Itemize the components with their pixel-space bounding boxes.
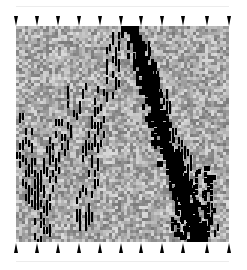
up-arrow-icon — [56, 243, 60, 253]
top-guide-line — [16, 6, 229, 7]
up-arrow-icon — [77, 243, 81, 253]
up-arrow-icon — [119, 243, 123, 253]
specimen-damage-field — [16, 26, 229, 242]
specimen-figure — [0, 0, 247, 270]
up-arrow-icon — [181, 243, 185, 253]
up-arrow-icon — [14, 243, 18, 253]
down-arrow-icon — [56, 16, 60, 26]
down-arrow-icon — [98, 16, 102, 26]
up-arrow-icon — [227, 243, 231, 253]
down-arrow-icon — [35, 16, 39, 26]
up-arrow-icon — [160, 243, 164, 253]
down-arrow-icon — [181, 16, 185, 26]
bottom-guide-line — [16, 261, 229, 262]
down-arrow-icon — [119, 16, 123, 26]
up-arrow-icon — [205, 243, 209, 253]
up-arrow-icon — [35, 243, 39, 253]
down-arrow-icon — [139, 16, 143, 26]
down-arrow-icon — [77, 16, 81, 26]
down-arrow-icon — [160, 16, 164, 26]
down-arrow-icon — [205, 16, 209, 26]
up-arrow-icon — [139, 243, 143, 253]
down-arrow-icon — [14, 16, 18, 26]
damage-field-canvas — [16, 26, 229, 242]
down-arrow-icon — [227, 16, 231, 26]
up-arrow-icon — [98, 243, 102, 253]
